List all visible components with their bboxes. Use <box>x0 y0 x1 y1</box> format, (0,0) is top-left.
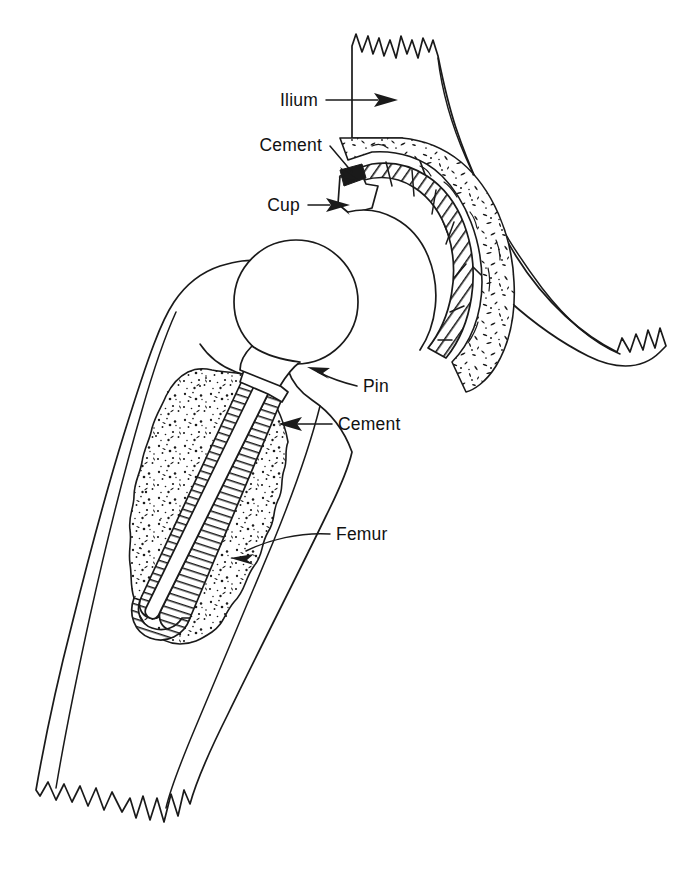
femoral-head-group <box>234 240 358 386</box>
label-cup-text: Cup <box>267 195 300 215</box>
label-pin-arrowhead <box>307 367 330 379</box>
hip-replacement-diagram: Ilium Cement Cup Pin Cement <box>0 0 680 879</box>
label-femur-text: Femur <box>336 524 388 544</box>
label-cement-femoral-text: Cement <box>338 414 400 434</box>
hip-diagram-canvas: Ilium Cement Cup Pin Cement <box>0 0 680 879</box>
label-cement-acetabular-text: Cement <box>260 135 322 155</box>
label-ilium-text: Ilium <box>280 90 318 110</box>
label-pin[interactable]: Pin <box>307 367 389 396</box>
label-pin-text: Pin <box>363 376 389 396</box>
cup-socket-surface <box>348 210 436 350</box>
